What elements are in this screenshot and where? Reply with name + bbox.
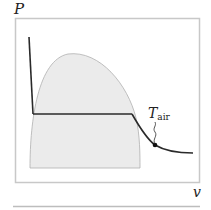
x-axis-label: v	[193, 184, 201, 200]
pv-diagram: Tair P v	[0, 0, 211, 210]
y-axis-label: P	[13, 0, 25, 18]
